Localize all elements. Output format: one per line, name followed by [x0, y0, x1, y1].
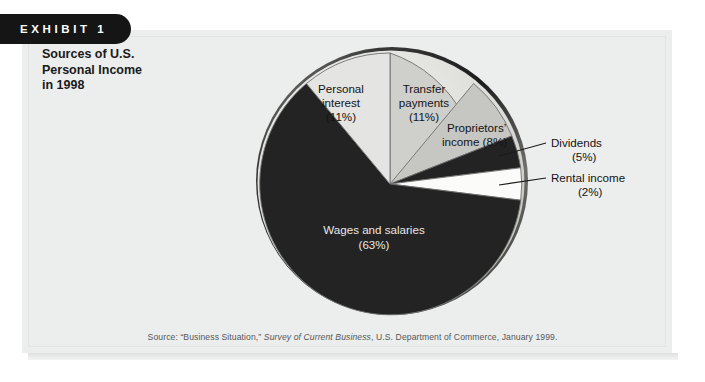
source-note-prefix: Source: “Business Situation,”: [148, 332, 264, 342]
exhibit-badge: EXHIBIT 1: [0, 14, 131, 44]
page-title-line-1: Sources of U.S.: [42, 47, 202, 63]
exhibit-badge-label: EXHIBIT 1: [20, 23, 107, 35]
page-title-line-3: in 1998: [42, 78, 202, 94]
card-drop-shadow: [28, 353, 678, 360]
source-note: Source: “Business Situation,” Survey of …: [0, 332, 705, 342]
page-title: Sources of U.S. Personal Income in 1998: [42, 47, 202, 94]
source-note-publication: Survey of Current Business: [264, 332, 371, 342]
page-title-line-2: Personal Income: [42, 63, 202, 79]
source-note-suffix: , U.S. Department of Commerce, January 1…: [371, 332, 557, 342]
